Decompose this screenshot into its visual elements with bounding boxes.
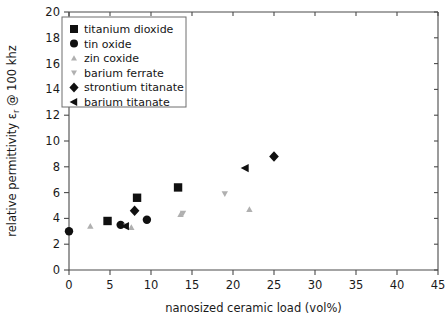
data-point <box>241 164 249 172</box>
chart-figure: 05101520253035404502468101214161820 tita… <box>0 0 448 322</box>
y-tick-label: 6 <box>53 186 60 200</box>
x-tick-label: 45 <box>431 278 446 292</box>
legend: titanium dioxidetin oxidezin coxidebariu… <box>62 17 186 109</box>
data-point <box>222 191 228 197</box>
data-point <box>87 223 93 229</box>
y-tick-label: 20 <box>45 5 60 19</box>
legend-marker-square-icon <box>70 25 78 33</box>
legend-label: zin coxide <box>84 52 139 65</box>
y-tick-label: 8 <box>53 160 60 174</box>
data-point <box>65 227 73 235</box>
data-point <box>130 205 140 216</box>
x-tick-label: 15 <box>185 278 200 292</box>
legend-label: strontium titanate <box>84 81 184 94</box>
legend-label: titanium dioxide <box>84 23 174 36</box>
data-point <box>246 206 252 212</box>
x-tick-label: 40 <box>390 278 405 292</box>
y-tick-label: 2 <box>53 237 60 251</box>
x-axis-title: nanosized ceramic load (vol%) <box>165 301 342 315</box>
y-tick-label: 10 <box>45 134 60 148</box>
data-points <box>65 151 279 235</box>
data-point <box>128 224 134 230</box>
data-point <box>103 217 111 225</box>
legend-label: tin oxide <box>84 38 132 51</box>
series-strontium-titanate <box>130 151 279 216</box>
data-point <box>174 183 182 191</box>
series-zin-coxide <box>87 206 252 230</box>
legend-label: barium ferrate <box>84 67 164 80</box>
scatter-plot: 05101520253035404502468101214161820 tita… <box>0 0 448 322</box>
x-tick-label: 0 <box>65 278 72 292</box>
x-tick-label: 30 <box>308 278 323 292</box>
data-point <box>133 194 141 202</box>
y-tick-label: 14 <box>45 82 60 96</box>
x-tick-label: 10 <box>144 278 159 292</box>
legend-marker-circle-icon <box>70 40 78 48</box>
x-tick-label: 25 <box>267 278 282 292</box>
y-tick-label: 4 <box>53 211 60 225</box>
y-axis-title: relative permittivity εr @ 100 khz <box>5 45 21 236</box>
legend-label: barium titanate <box>84 96 170 109</box>
x-tick-label: 35 <box>349 278 364 292</box>
x-tick-label: 20 <box>226 278 241 292</box>
y-tick-label: 0 <box>53 263 60 277</box>
y-tick-label: 16 <box>45 57 60 71</box>
y-tick-label: 18 <box>45 31 60 45</box>
y-tick-label: 12 <box>45 108 60 122</box>
data-point <box>143 215 151 223</box>
data-point <box>269 151 279 162</box>
x-tick-label: 5 <box>106 278 113 292</box>
